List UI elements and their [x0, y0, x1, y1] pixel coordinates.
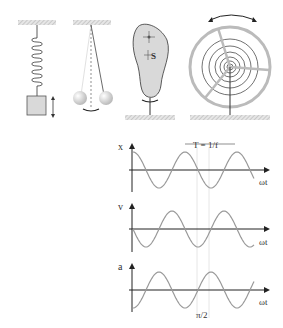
pendulum-oscillator [73, 20, 113, 111]
pendulum-ball [99, 91, 113, 105]
svg-text:x: x [118, 141, 123, 152]
svg-text:ωt: ωt [259, 237, 268, 247]
graph-x: x ωt T = 1/f [118, 140, 270, 192]
spring-icon [32, 38, 43, 86]
spring-mass-oscillator [18, 20, 56, 118]
graph-v: v ωt [118, 201, 270, 252]
oscillation-diagram: S x ωt T = 1/f [0, 0, 283, 328]
svg-text:S: S [151, 51, 156, 61]
svg-text:a: a [118, 261, 123, 272]
ceiling-hatch [18, 20, 56, 25]
physical-pendulum: S [125, 24, 175, 120]
pendulum-ghost-ball [73, 91, 87, 105]
svg-text:π/2: π/2 [196, 310, 208, 320]
mass-block [27, 96, 46, 115]
svg-text:ωt: ωt [259, 177, 268, 187]
balance-wheel [190, 15, 270, 120]
graph-a: a ωt π/2 [118, 261, 270, 320]
svg-text:T = 1/f: T = 1/f [193, 140, 218, 150]
svg-text:v: v [118, 201, 123, 212]
swing-arrow-icon [83, 109, 99, 111]
svg-text:ωt: ωt [259, 297, 268, 307]
